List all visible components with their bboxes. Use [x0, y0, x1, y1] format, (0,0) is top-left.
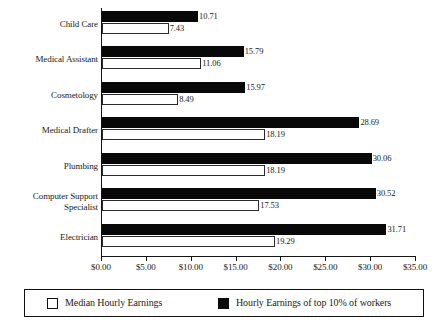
- bar-top10: [102, 46, 244, 57]
- legend-item-top10: Hourly Earnings of top 10% of workers: [218, 290, 391, 316]
- bar-top10: [102, 188, 376, 199]
- bar-value-label: 19.29: [276, 236, 295, 247]
- x-tick: [280, 257, 281, 261]
- bar-chart: $0.00$5.00$10.00$15.00$20.00$25.00$30.00…: [0, 0, 438, 327]
- bar-group: Child Care10.717.43: [0, 8, 438, 43]
- category-label: Plumbing: [0, 161, 98, 172]
- bar-value-label: 18.19: [266, 165, 285, 176]
- median-swatch-icon: [47, 298, 58, 309]
- category-label: Electrician: [0, 232, 98, 243]
- bar-top10: [102, 82, 245, 93]
- bar-group: Plumbing30.0618.19: [0, 150, 438, 185]
- bar-group: Computer Support Specialist30.5217.53: [0, 185, 438, 220]
- bar-top10: [102, 224, 386, 235]
- bar-group: Electrician31.7119.29: [0, 221, 438, 256]
- bar-median: [102, 58, 201, 69]
- x-tick-label: $20.00: [268, 262, 292, 273]
- bar-median: [102, 236, 275, 247]
- category-label: Child Care: [0, 19, 98, 30]
- bar-value-label: 15.79: [245, 46, 264, 57]
- bar-top10: [102, 153, 372, 164]
- x-tick: [146, 257, 147, 261]
- bar-group: Medical Assistant15.7911.06: [0, 43, 438, 78]
- x-tick-label: $35.00: [403, 262, 427, 273]
- x-tick: [370, 257, 371, 261]
- legend-item-median: Median Hourly Earnings: [47, 290, 162, 316]
- x-axis-line: [101, 256, 416, 257]
- bar-top10: [102, 117, 359, 128]
- x-tick-label: $30.00: [358, 262, 382, 273]
- bar-median: [102, 23, 169, 34]
- x-tick-label: $10.00: [179, 262, 203, 273]
- category-label: Medical Drafter: [0, 125, 98, 136]
- bar-group: Medical Drafter28.6918.19: [0, 114, 438, 149]
- bar-median: [102, 129, 265, 140]
- x-tick: [191, 257, 192, 261]
- legend-label-median: Median Hourly Earnings: [65, 297, 162, 309]
- bar-median: [102, 200, 259, 211]
- bar-top10: [102, 11, 198, 22]
- x-tick: [415, 257, 416, 261]
- x-tick-label: $0.00: [91, 262, 111, 273]
- bar-median: [102, 165, 265, 176]
- chart-legend: Median Hourly Earnings Hourly Earnings o…: [24, 289, 424, 317]
- top10-swatch-icon: [218, 298, 229, 309]
- bar-value-label: 17.53: [260, 200, 279, 211]
- bar-value-label: 8.49: [179, 94, 193, 105]
- category-label: Cosmetology: [0, 90, 98, 101]
- x-tick-label: $15.00: [223, 262, 247, 273]
- category-label: Medical Assistant: [0, 54, 98, 65]
- category-label: Computer Support Specialist: [0, 191, 98, 212]
- bar-value-label: 11.06: [202, 58, 220, 69]
- bar-value-label: 18.19: [266, 129, 285, 140]
- x-tick: [236, 257, 237, 261]
- bar-value-label: 28.69: [360, 117, 379, 128]
- bar-value-label: 30.06: [373, 153, 392, 164]
- bar-value-label: 10.71: [199, 11, 218, 22]
- bar-value-label: 31.71: [387, 224, 406, 235]
- bar-value-label: 15.97: [246, 82, 265, 93]
- x-tick: [101, 257, 102, 261]
- bar-value-label: 7.43: [170, 23, 184, 34]
- bar-group: Cosmetology15.978.49: [0, 79, 438, 114]
- bar-value-label: 30.52: [377, 188, 396, 199]
- legend-label-top10: Hourly Earnings of top 10% of workers: [236, 297, 391, 309]
- x-tick-label: $25.00: [313, 262, 337, 273]
- bar-median: [102, 94, 178, 105]
- x-tick: [325, 257, 326, 261]
- x-tick-label: $5.00: [136, 262, 156, 273]
